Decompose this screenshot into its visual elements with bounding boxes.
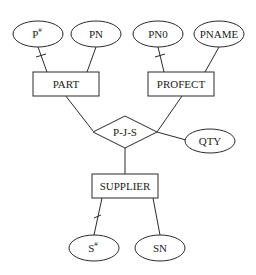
er-diagram: P# PN PN0 PNAME PART PROFECT P-J-S <box>0 0 256 275</box>
connector-supplier-sn <box>153 198 160 235</box>
connector-pn-part <box>87 47 96 72</box>
entity-label: PART <box>53 78 80 90</box>
connector-pname-profect <box>205 47 219 72</box>
entity-supplier[interactable]: SUPPLIER <box>92 174 158 198</box>
attribute-sn[interactable]: SN <box>135 235 185 261</box>
attribute-pn0[interactable]: PN0 <box>133 21 183 47</box>
attribute-qty[interactable]: QTY <box>185 129 235 153</box>
connector-p-num-part <box>38 47 47 72</box>
entity-label: SUPPLIER <box>100 180 151 192</box>
attribute-label: PN <box>89 28 103 40</box>
connector-pn0-profect <box>158 47 164 72</box>
connector-pjs-qty <box>157 132 186 140</box>
attribute-p-num[interactable]: P# <box>13 21 63 47</box>
connector-profect-pjs <box>157 96 182 132</box>
entity-part[interactable]: PART <box>33 72 99 96</box>
attribute-label-sup: # <box>94 240 98 248</box>
entity-profect[interactable]: PROFECT <box>148 72 214 96</box>
attribute-label: PN0 <box>148 28 168 40</box>
relationship-pjs[interactable]: P-J-S <box>93 116 157 148</box>
attribute-s-num[interactable]: S# <box>69 235 119 261</box>
attribute-label: PNAME <box>200 28 239 40</box>
relationship-label: P-J-S <box>113 126 137 138</box>
attribute-label: SN <box>153 242 167 254</box>
connector-part-pjs <box>65 95 93 131</box>
attribute-pname[interactable]: PNAME <box>194 21 244 47</box>
entity-label: PROFECT <box>157 78 206 90</box>
attribute-label-sup: # <box>38 26 42 34</box>
attribute-label: QTY <box>199 135 222 147</box>
attribute-pn[interactable]: PN <box>71 21 121 47</box>
